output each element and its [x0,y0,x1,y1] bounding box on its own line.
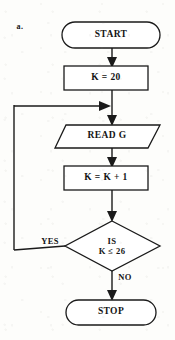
edge-no-label: NO [118,273,132,282]
node-increment-label: K = K + 1 [84,173,127,183]
edge-yes-label: YES [41,237,59,246]
node-stop-label: STOP [98,307,124,317]
node-start-label: START [95,30,128,40]
node-read-label: READ G [87,131,126,141]
flowchart-canvas [0,0,175,340]
node-decision-label: IS K ≤ 26 [99,236,126,257]
flowchart-diagram: a. START K = 20 READ G K = K + 1 IS K ≤ … [0,0,175,340]
node-decision-label-line1: IS [99,236,126,246]
node-init-label: K = 20 [91,73,120,83]
node-decision-label-line2: K ≤ 26 [99,246,126,256]
item-label: a. [17,23,24,31]
edge-yes-horizontal [14,246,65,250]
loop-return-arrow [99,101,111,111]
